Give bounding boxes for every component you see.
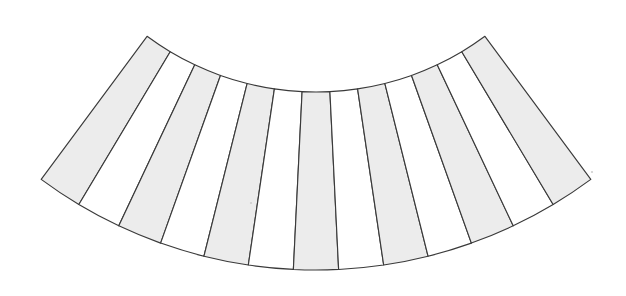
annular-sector-diagram [0, 0, 626, 296]
segments-group [41, 36, 591, 270]
figure-container [0, 0, 626, 296]
speck-mark-2 [591, 171, 593, 173]
speck-mark-1 [250, 202, 252, 204]
